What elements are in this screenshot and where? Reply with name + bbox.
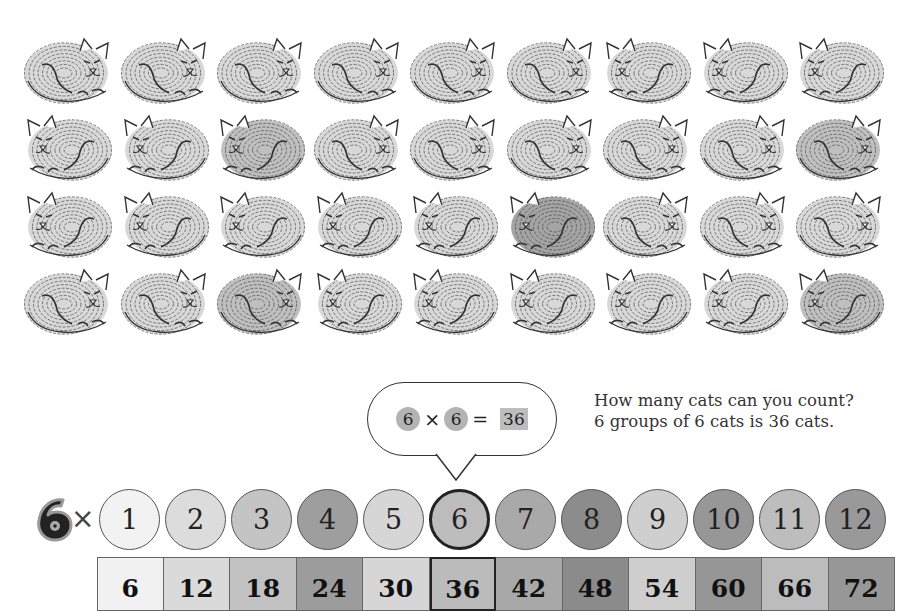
cat-icon: [794, 35, 890, 107]
cat-icon: [312, 112, 408, 184]
six-badge-icon: [33, 496, 75, 542]
product-cell-36: 36: [430, 557, 497, 611]
cat-icon: [505, 189, 601, 261]
times-sign-large: ×: [71, 502, 94, 535]
factor-a-dot: 6: [396, 407, 420, 431]
factor-circle-1: 1: [99, 489, 160, 550]
times-sign: ×: [424, 408, 440, 430]
factor-circle-5: 5: [363, 489, 424, 550]
cat-row: [22, 186, 902, 263]
factor-circle-8: 8: [561, 489, 622, 550]
cat-icon: [698, 112, 794, 184]
factor-circle-4: 4: [297, 489, 358, 550]
cat-icon: [505, 112, 601, 184]
cat-icon: [408, 189, 504, 261]
product-cell-42: 42: [496, 557, 563, 611]
cat-illustration-grid: [22, 32, 902, 340]
question-line: How many cats can you count?: [594, 390, 854, 411]
factor-circle-9: 9: [627, 489, 688, 550]
equals-sign: =: [472, 408, 488, 430]
cat-icon: [794, 189, 890, 261]
product-cell-12: 12: [164, 557, 231, 611]
cat-icon: [601, 189, 697, 261]
product-box: 36: [500, 408, 528, 430]
product-cell-6: 6: [97, 557, 164, 611]
cat-icon: [794, 112, 890, 184]
cat-icon: [698, 189, 794, 261]
cat-icon: [22, 112, 118, 184]
factor-circle-3: 3: [231, 489, 292, 550]
cat-icon: [698, 35, 794, 107]
product-cells: 61218243036424854606672: [97, 557, 895, 611]
cat-icon: [601, 266, 697, 338]
cat-icon: [408, 112, 504, 184]
cat-icon: [119, 266, 215, 338]
cat-row: [22, 109, 902, 186]
product-cell-30: 30: [363, 557, 430, 611]
cat-icon: [794, 266, 890, 338]
product-cell-48: 48: [563, 557, 630, 611]
cat-icon: [312, 266, 408, 338]
product-cell-72: 72: [829, 557, 896, 611]
cat-icon: [215, 112, 311, 184]
question-text: How many cats can you count? 6 groups of…: [594, 390, 854, 432]
factor-circle-12: 12: [825, 489, 886, 550]
cat-row: [22, 32, 902, 109]
factor-circles: 123456789101112: [99, 489, 886, 550]
speech-bubble: 6 × 6 = 36: [367, 382, 557, 456]
equation: 6 × 6 = 36: [368, 383, 556, 455]
product-cell-24: 24: [297, 557, 364, 611]
cat-icon: [119, 35, 215, 107]
cat-icon: [215, 266, 311, 338]
cat-icon: [601, 35, 697, 107]
cat-icon: [22, 35, 118, 107]
factor-circle-10: 10: [693, 489, 754, 550]
cat-icon: [505, 35, 601, 107]
cat-icon: [119, 189, 215, 261]
product-cell-18: 18: [230, 557, 297, 611]
factor-circle-11: 11: [759, 489, 820, 550]
cat-icon: [215, 35, 311, 107]
cat-icon: [312, 35, 408, 107]
cat-row: [22, 263, 902, 340]
product-cell-60: 60: [696, 557, 763, 611]
cat-icon: [119, 112, 215, 184]
cat-icon: [215, 189, 311, 261]
cat-icon: [408, 35, 504, 107]
answer-line: 6 groups of 6 cats is 36 cats.: [594, 411, 854, 432]
factor-circle-6: 6: [429, 489, 490, 550]
cat-icon: [312, 189, 408, 261]
cat-icon: [22, 266, 118, 338]
cat-icon: [505, 266, 601, 338]
product-cell-66: 66: [762, 557, 829, 611]
factor-circle-7: 7: [495, 489, 556, 550]
factor-b-dot: 6: [444, 407, 468, 431]
factor-circle-2: 2: [165, 489, 226, 550]
cat-icon: [601, 112, 697, 184]
speech-bubble-tail: [436, 454, 486, 482]
cat-icon: [408, 266, 504, 338]
cat-icon: [22, 189, 118, 261]
cat-icon: [698, 266, 794, 338]
product-cell-54: 54: [629, 557, 696, 611]
